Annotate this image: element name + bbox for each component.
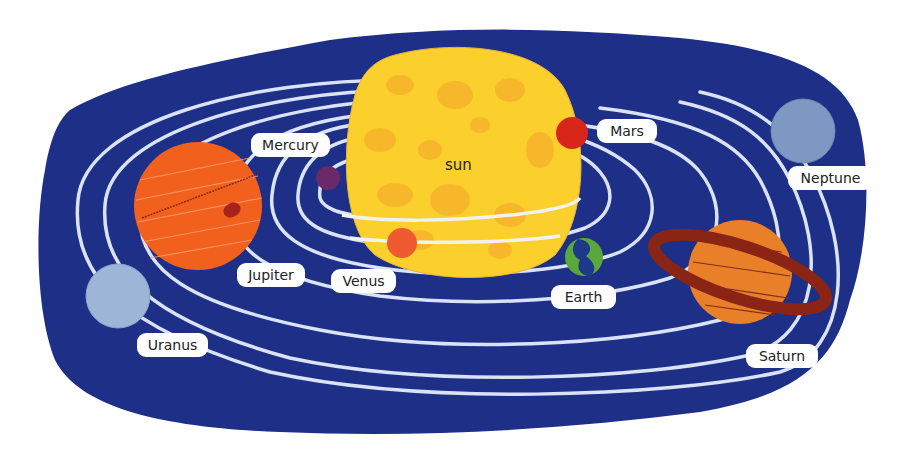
planet-jupiter [134, 142, 262, 270]
solar-system-scene [0, 0, 902, 464]
label-neptune: Neptune [788, 166, 873, 190]
label-saturn: Saturn [746, 344, 818, 368]
label-mars: Mars [597, 119, 657, 143]
label-mercury: Mercury [251, 133, 330, 157]
planet-earth [565, 238, 603, 276]
label-venus: Venus [331, 269, 396, 293]
label-earth: Earth [551, 285, 616, 309]
label-uranus: Uranus [137, 333, 208, 357]
planet-venus [387, 228, 417, 258]
label-jupiter: Jupiter [237, 263, 305, 287]
planet-mars [556, 117, 588, 149]
planet-mercury [316, 166, 340, 190]
sun-label: sun [445, 156, 472, 174]
planet-uranus [86, 264, 150, 328]
planet-neptune [771, 99, 835, 163]
